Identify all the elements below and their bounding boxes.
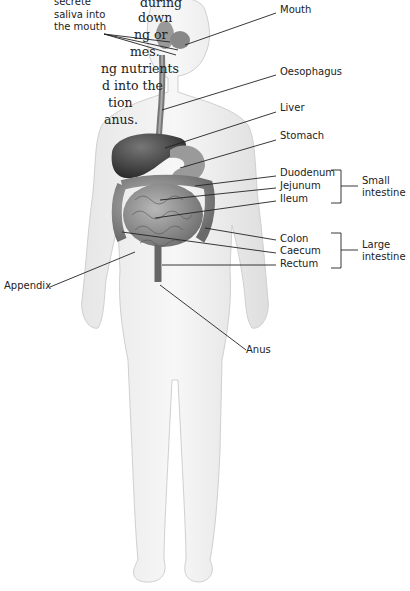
intro-line: tion	[0, 94, 175, 111]
label-caecum: Caecum	[280, 245, 321, 257]
intro-line: d into the	[0, 77, 175, 94]
label-mouth: Mouth	[280, 4, 311, 16]
group-line: Large	[362, 239, 406, 251]
group-line: Small	[362, 175, 406, 187]
label-ileum: Ileum	[280, 193, 308, 205]
group-line: intestine	[362, 187, 406, 199]
label-duodenum: Duodenum	[280, 167, 335, 179]
callout-line: secrete	[54, 0, 106, 9]
label-jejunum: Jejunum	[280, 180, 321, 192]
group-large-intestine: Large intestine	[362, 239, 406, 263]
callout-line: saliva into	[54, 9, 106, 22]
callout-saliva: secrete saliva into the mouth	[54, 0, 106, 34]
label-rectum: Rectum	[280, 258, 318, 270]
label-colon: Colon	[280, 233, 308, 245]
label-oesophagus: Oesophagus	[280, 66, 342, 78]
group-small-intestine: Small intestine	[362, 175, 406, 199]
label-liver: Liver	[280, 102, 305, 114]
label-stomach: Stomach	[280, 130, 324, 142]
group-line: intestine	[362, 251, 406, 263]
intro-line: mes.	[0, 43, 175, 60]
label-anus: Anus	[246, 344, 271, 356]
intro-line: ng nutrients	[0, 60, 175, 77]
intro-line: anus.	[0, 111, 175, 128]
label-appendix: Appendix	[4, 280, 51, 292]
callout-line: the mouth	[54, 21, 106, 34]
